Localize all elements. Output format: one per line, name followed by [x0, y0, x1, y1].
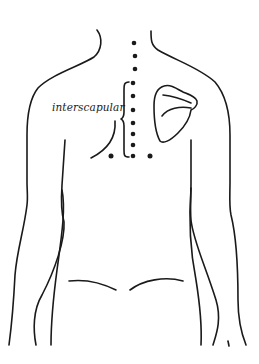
torso-outline	[9, 30, 246, 346]
left-neck-shoulder-line	[9, 30, 101, 345]
interscapular-label: interscapular	[52, 101, 125, 113]
gluteal-lines	[69, 279, 183, 290]
spine-point-3	[133, 67, 138, 72]
scapula-outline	[154, 85, 197, 142]
spine-point-9	[131, 143, 136, 148]
spine-point-10	[131, 154, 136, 159]
scapula-spine-lower	[162, 107, 191, 116]
spine-point-7	[131, 121, 136, 126]
spine-point-8	[131, 132, 136, 137]
right-torso-side-line	[190, 188, 201, 345]
back-diagram	[0, 0, 259, 364]
spine-point-6	[131, 108, 136, 113]
interscapular-brace	[121, 82, 129, 157]
right-gluteal-line	[130, 279, 183, 290]
spine-point-5	[131, 94, 136, 99]
spine-point-1	[132, 41, 137, 46]
right-scapula	[154, 85, 197, 142]
lateral-point-right	[148, 154, 153, 159]
spine-point-2	[133, 54, 138, 59]
interscapular-marks	[91, 82, 129, 158]
scapula-spine-upper	[163, 95, 191, 103]
auscultation-points	[109, 41, 153, 159]
lateral-point-left	[109, 154, 114, 159]
left-scapula-curve	[91, 121, 115, 158]
left-gluteal-line	[69, 280, 116, 290]
right-small-mark	[228, 341, 229, 346]
spine-point-4	[131, 81, 136, 86]
right-inner-arm-line	[191, 140, 219, 345]
